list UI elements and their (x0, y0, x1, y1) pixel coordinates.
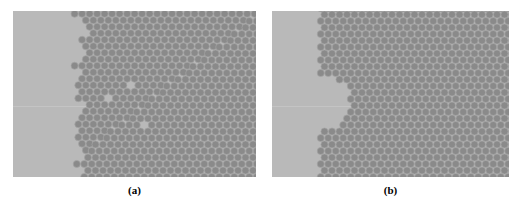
panel-b-image (272, 11, 509, 177)
panel-b-canvas (272, 11, 509, 177)
panel-a-canvas (13, 11, 256, 177)
panel-a-image (13, 11, 256, 177)
figure-root: (a) (b) (0, 0, 522, 205)
panel-a-caption: (a) (13, 184, 256, 197)
panel-b-caption: (b) (272, 184, 509, 197)
